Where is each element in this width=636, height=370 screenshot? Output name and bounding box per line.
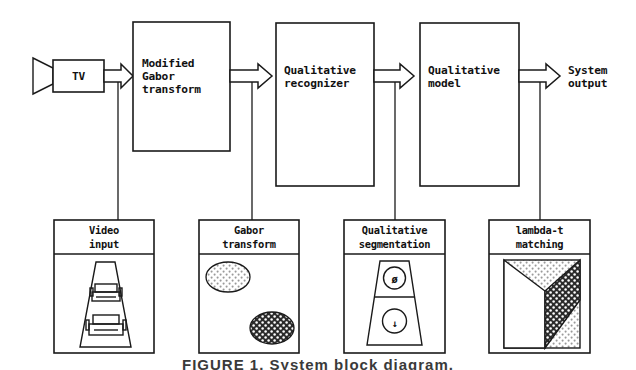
stage-label-recognizer-l2: recognizer xyxy=(284,77,350,90)
stage-label-model-l2: model xyxy=(428,77,461,90)
thumb-label-segmentation-l2: segmentation xyxy=(359,238,431,250)
stage-label-model-l1: Qualitative xyxy=(428,64,500,77)
stage-label-recognizer-l1: Qualitative xyxy=(284,64,356,77)
segment-symbol-down-arrow: ↓ xyxy=(392,317,398,329)
output-label-l1: System xyxy=(568,64,608,77)
thumbnail-gabor-transform[interactable]: Gabor transform xyxy=(199,220,299,353)
thumb-label-gabor-l2: transform xyxy=(222,238,276,250)
thumbnail-lambda-t-matching[interactable]: lambda-t matching xyxy=(489,220,590,353)
stage-box-gabor[interactable]: Modified Gabor transform xyxy=(133,22,230,151)
stage-box-model[interactable]: Qualitative model xyxy=(420,23,519,186)
tv-camera-icon xyxy=(33,58,53,94)
thumb-label-segmentation-l1: Qualitative xyxy=(362,224,428,236)
stage-label-tv: TV xyxy=(72,70,86,83)
thumb-label-video-input-l2: input xyxy=(89,238,119,250)
segment-symbol-null: ø xyxy=(392,273,399,285)
thumb-label-lambda-l2: matching xyxy=(516,238,564,250)
stage-label-gabor-l3: transform xyxy=(142,83,201,96)
block-diagram-svg: TV Modified Gabor transform Qualitative … xyxy=(0,0,636,370)
figure-canvas: TV Modified Gabor transform Qualitative … xyxy=(0,0,636,370)
stage-label-gabor-l2: Gabor xyxy=(142,70,175,83)
thumbnail-video-input[interactable]: Video input xyxy=(54,220,154,353)
thumb-label-video-input-l1: Video xyxy=(89,224,119,236)
pipeline-output-label: System output xyxy=(568,64,608,90)
stage-label-gabor-l1: Modified xyxy=(142,57,194,70)
thumbnail-qualitative-segmentation[interactable]: Qualitative segmentation ø ↓ xyxy=(344,220,445,353)
figure-caption: FIGURE 1. System block diagram. xyxy=(0,356,636,370)
arrow-recognizer-to-model xyxy=(374,64,414,88)
output-label-l2: output xyxy=(568,77,607,90)
stage-box-recognizer[interactable]: Qualitative recognizer xyxy=(276,23,374,186)
arrow-gabor-to-recognizer xyxy=(230,64,272,88)
dark-wedge-stipple-icon xyxy=(504,260,580,348)
stage-box-tv[interactable]: TV xyxy=(53,60,104,92)
thumb-label-lambda-l1: lambda-t xyxy=(516,224,564,236)
thumb-label-gabor-l1: Gabor xyxy=(234,224,264,236)
